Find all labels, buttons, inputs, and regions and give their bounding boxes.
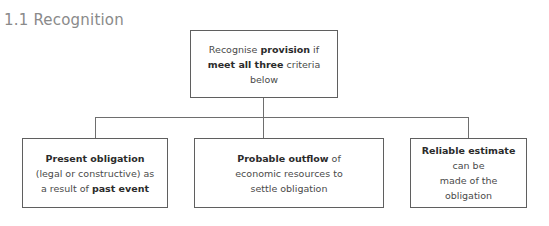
node-reliable-estimate-text: Reliable estimate can bemade of the obli… bbox=[411, 143, 526, 203]
node-recognition-criteria-text: Recognise provision ifmeet all three cri… bbox=[202, 42, 326, 87]
node-recognition-criteria: Recognise provision ifmeet all three cri… bbox=[190, 30, 338, 98]
connector-horizontal-bus bbox=[95, 117, 469, 118]
connector-root-trunk bbox=[263, 98, 264, 118]
connector-drop-right bbox=[468, 117, 469, 138]
connector-drop-left bbox=[95, 117, 96, 138]
node-reliable-estimate: Reliable estimate can bemade of the obli… bbox=[410, 138, 527, 208]
diagram-page: 1.1 Recognition Recognise provision ifme… bbox=[0, 0, 549, 226]
node-present-obligation-text: Present obligation(legal or constructive… bbox=[30, 151, 161, 196]
page-title: 1.1 Recognition bbox=[4, 11, 124, 30]
node-probable-outflow-text: Probable outflow ofeconomic resources to… bbox=[229, 151, 348, 196]
connector-drop-middle bbox=[263, 117, 264, 138]
node-present-obligation: Present obligation(legal or constructive… bbox=[22, 138, 168, 208]
node-probable-outflow: Probable outflow ofeconomic resources to… bbox=[194, 138, 384, 208]
